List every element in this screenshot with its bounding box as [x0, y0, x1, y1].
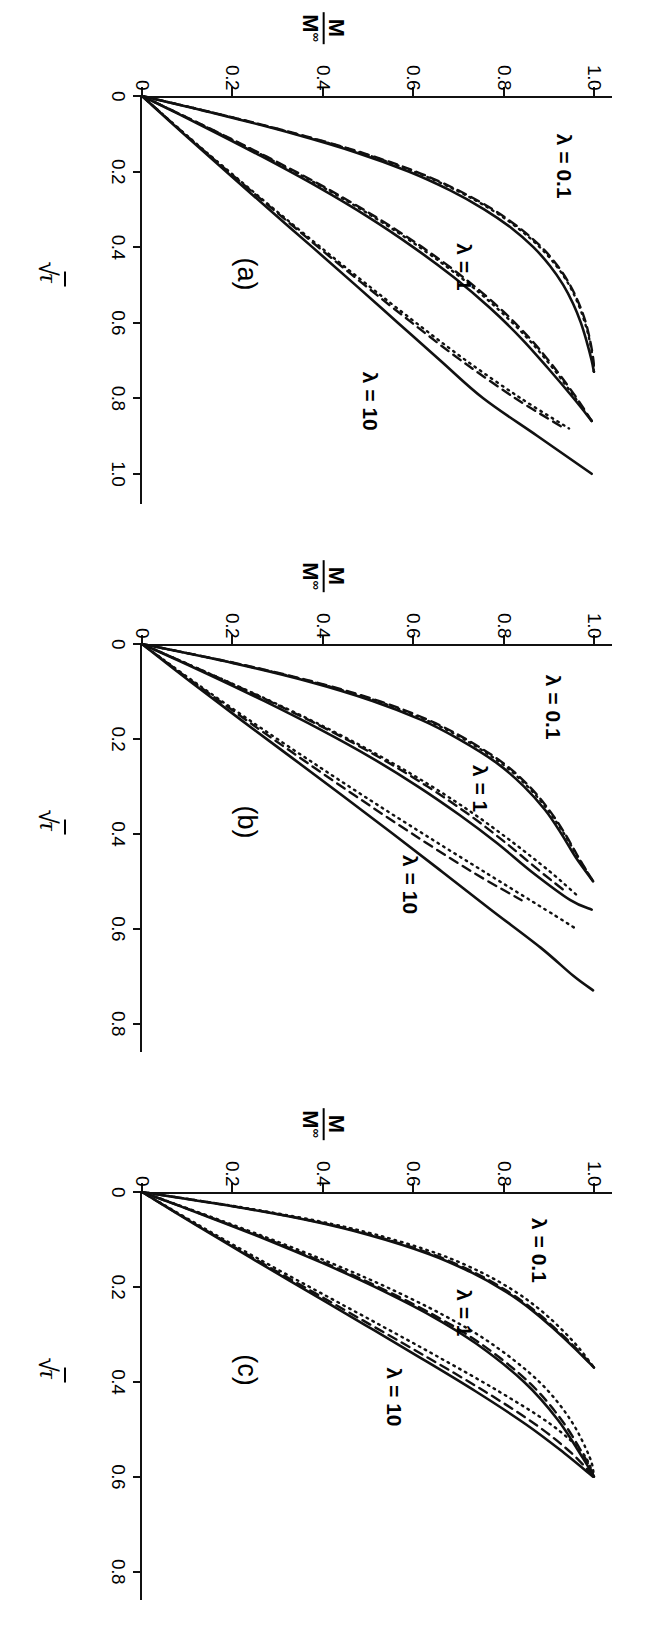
x-axis-tick-label: 1.0 [107, 461, 129, 486]
x-axis-tick-label: 0 [107, 91, 129, 101]
x-axis-tick-label: 0.2 [107, 726, 129, 751]
curve-dotted [142, 96, 594, 372]
plot-area: 00.20.40.60.81.000.20.40.60.8λ = 0.1λ = … [142, 1192, 612, 1600]
figure-rotator: 00.20.40.60.81.000.20.40.60.81.0λ = 0.1λ… [0, 0, 646, 1646]
y-axis-tick-label: 0.2 [221, 613, 243, 638]
y-axis-tick-label: 0.6 [402, 1161, 424, 1186]
y-axis-label-denominator-base: M [298, 1110, 323, 1128]
x-axis-tick-label: 0.6 [107, 1464, 129, 1489]
curve-group [128, 644, 612, 1066]
x-axis-tick-label: 0.2 [107, 1274, 129, 1299]
radical-icon: √ [35, 1358, 61, 1372]
x-axis-label: √τ [34, 262, 66, 287]
curve-dashed [142, 644, 593, 881]
y-axis-label-denominator-base: M [298, 14, 323, 32]
x-axis-tick-label: 0 [107, 1187, 129, 1197]
y-axis-tick-label: 1.0 [583, 613, 605, 638]
curve-annotation: λ = 10 [398, 855, 422, 914]
curve-annotation: λ = 0.1 [541, 675, 565, 740]
curve-annotation: λ = 1 [468, 765, 492, 812]
y-axis-tick-label: 0.6 [402, 613, 424, 638]
panel-b: 00.20.40.60.81.000.20.40.60.8λ = 0.1λ = … [0, 548, 646, 1096]
curve-annotation: λ = 0.1 [552, 134, 576, 199]
y-axis-label-numerator: M [325, 560, 347, 592]
x-axis-tick-label: 0.8 [107, 1559, 129, 1584]
x-axis-tick-label: 0.4 [107, 821, 129, 846]
y-axis-tick-label: 0.4 [312, 1161, 334, 1186]
y-axis-tick-label: 0.8 [493, 65, 515, 90]
y-axis-tick-label: 0.8 [493, 613, 515, 638]
y-axis-tick-label: 0.6 [402, 65, 424, 90]
y-axis-tick-label: 0 [131, 628, 153, 638]
curve-annotation: λ = 1 [452, 1289, 476, 1336]
curve-annotation: λ = 10 [358, 372, 382, 431]
curve-dashed [142, 96, 565, 428]
curve-solid [142, 644, 593, 881]
panel-label: (a) [231, 258, 262, 291]
three-panel-figure: 00.20.40.60.81.000.20.40.60.81.0λ = 0.1λ… [0, 0, 646, 1646]
infinity-symbol: ∞ [309, 33, 324, 42]
curve-dashed [142, 644, 522, 900]
infinity-symbol: ∞ [309, 581, 324, 590]
curve-solid [142, 644, 592, 910]
y-axis-tick-label: 0.2 [221, 1161, 243, 1186]
x-axis-tick-label: 0 [107, 639, 129, 649]
infinity-symbol: ∞ [309, 1129, 324, 1138]
curve-group [128, 96, 612, 518]
curve-dotted [142, 644, 593, 881]
radical-icon: √ [35, 262, 61, 276]
x-axis-label: √τ [34, 810, 66, 835]
x-axis-tick-label: 0.8 [107, 1011, 129, 1036]
x-axis-tick-label: 0.8 [107, 386, 129, 411]
plot-area: 00.20.40.60.81.000.20.40.60.8λ = 0.1λ = … [142, 644, 612, 1052]
y-axis-tick-label: 0 [131, 1176, 153, 1186]
x-axis-label: √τ [34, 1358, 66, 1383]
curve-solid [142, 644, 593, 990]
panel-a: 00.20.40.60.81.000.20.40.60.81.0λ = 0.1λ… [0, 0, 646, 548]
x-axis-tick-label: 0.2 [107, 159, 129, 184]
curve-annotation: λ = 1 [452, 243, 476, 290]
panel-c: 00.20.40.60.81.000.20.40.60.8λ = 0.1λ = … [0, 1096, 646, 1644]
y-axis-label: MM∞ [299, 560, 346, 592]
y-axis-tick-label: 0.8 [493, 1161, 515, 1186]
y-axis-label-denominator: M∞ [299, 560, 324, 592]
curve-dotted [142, 96, 569, 428]
y-axis-label-denominator-base: M [298, 562, 323, 580]
y-axis-label-numerator: M [325, 1108, 347, 1140]
y-axis-tick-label: 1.0 [583, 65, 605, 90]
y-axis-tick-label: 0.4 [312, 613, 334, 638]
y-axis-label: MM∞ [299, 1108, 346, 1140]
curve-annotation: λ = 0.1 [527, 1218, 551, 1283]
y-axis-tick-label: 0.4 [312, 65, 334, 90]
y-axis-label: MM∞ [299, 12, 346, 44]
plot-area: 00.20.40.60.81.000.20.40.60.81.0λ = 0.1λ… [142, 96, 612, 504]
curve-dotted [142, 644, 576, 929]
x-axis-tick-label: 0.6 [107, 310, 129, 335]
panel-label: (b) [231, 806, 262, 839]
x-axis-tick-label: 0.4 [107, 1369, 129, 1394]
y-axis-label-denominator: M∞ [299, 1108, 324, 1140]
y-axis-tick-label: 0.2 [221, 65, 243, 90]
y-axis-label-denominator: M∞ [299, 12, 324, 44]
y-axis-tick-label: 1.0 [583, 1161, 605, 1186]
x-axis-tick-label: 0.4 [107, 235, 129, 260]
x-axis-tick-label: 0.6 [107, 916, 129, 941]
radical-icon: √ [35, 810, 61, 824]
panel-label: (c) [231, 1354, 262, 1385]
curve-annotation: λ = 10 [382, 1368, 406, 1427]
y-axis-label-numerator: M [325, 12, 347, 44]
y-axis-tick-label: 0 [131, 80, 153, 90]
